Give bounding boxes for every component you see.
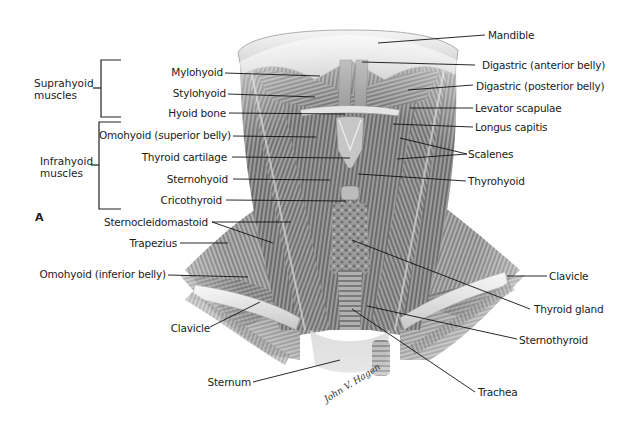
anatomy-figure: Suprahyoid muscles Infrahyoid muscles A … xyxy=(0,0,632,435)
group-label-line2: muscles xyxy=(40,167,93,179)
label-stylohyoid: Stylohyoid xyxy=(173,87,226,99)
group-label-line1: Infrahyoid xyxy=(40,155,93,167)
group-label-line1: Suprahyoid xyxy=(34,77,94,89)
panel-letter: A xyxy=(35,211,44,224)
label-mylohyoid: Mylohyoid xyxy=(171,66,223,78)
label-digastric-anterior: Digastric (anterior belly) xyxy=(482,59,605,71)
label-sternothyroid: Sternothyroid xyxy=(519,334,588,346)
label-clavicle-left: Clavicle xyxy=(171,322,210,334)
label-hyoid-bone: Hyoid bone xyxy=(168,107,226,119)
label-digastric-posterior: Digastric (posterior belly) xyxy=(476,80,604,92)
label-sternum: Sternum xyxy=(207,376,251,388)
label-thyroid-gland: Thyroid gland xyxy=(534,303,603,315)
label-sternohyoid: Sternohyoid xyxy=(167,173,228,185)
label-omohyoid-inferior: Omohyoid (inferior belly) xyxy=(39,268,166,280)
label-sternocleidomastoid: Sternocleidomastoid xyxy=(104,216,208,228)
group-label-line2: muscles xyxy=(34,89,94,101)
label-trachea: Trachea xyxy=(478,386,518,398)
label-clavicle-right: Clavicle xyxy=(549,270,588,282)
group-label-infrahyoid: Infrahyoid muscles xyxy=(40,155,93,179)
label-cricothyroid: Cricothyroid xyxy=(161,194,222,206)
label-thyrohyoid: Thyrohyoid xyxy=(468,175,525,187)
group-label-suprahyoid: Suprahyoid muscles xyxy=(34,77,94,101)
label-longus-capitis: Longus capitis xyxy=(475,121,547,133)
label-mandible: Mandible xyxy=(488,29,534,41)
label-trapezius: Trapezius xyxy=(129,237,177,249)
label-thyroid-cartilage: Thyroid cartilage xyxy=(142,151,227,163)
label-levator-scapulae: Levator scapulae xyxy=(475,102,562,114)
label-scalenes: Scalenes xyxy=(468,148,513,160)
label-omohyoid-superior: Omohyoid (superior belly) xyxy=(99,129,231,141)
